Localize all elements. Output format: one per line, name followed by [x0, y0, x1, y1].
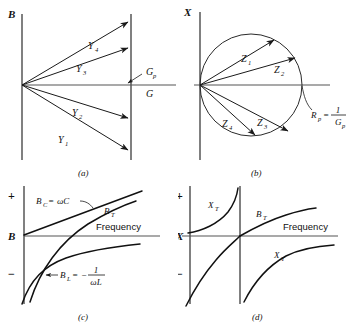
label-bt-sub: T: [263, 214, 267, 221]
label-z4: Z 4: [222, 118, 233, 131]
label-bl-sub: L: [66, 275, 71, 282]
label-z3-sub: 3: [263, 123, 268, 130]
label-z2-sub: 2: [281, 70, 285, 77]
label-y2: Y 2: [72, 107, 83, 120]
label-y2-sub: 2: [79, 113, 83, 120]
label-z4-base: Z: [222, 118, 228, 129]
caption-a: (a): [78, 168, 89, 178]
panel-a: B Y 4 Y 3 Y 2 Y 1 G p G (a): [0, 0, 178, 178]
label-rp-sub: p: [317, 115, 322, 122]
curve-xt-right: [244, 245, 334, 302]
label-gp: G p: [146, 66, 157, 79]
label-y4-sub: 4: [95, 46, 99, 53]
label-z1-base: Z: [241, 53, 247, 64]
caption-c: (c): [78, 312, 88, 322]
vector-z3: [200, 85, 288, 131]
label-rp-denominator-base: G: [335, 117, 342, 127]
label-xt-left-base: X: [207, 200, 214, 210]
panel-d: + − X X T B T Frequency X T (d): [178, 178, 355, 325]
curve-xt-left-lower: [186, 236, 240, 306]
caption-b: (b): [251, 168, 262, 178]
label-rp-denominator-sub: p: [341, 122, 346, 129]
leader-rp: [302, 86, 312, 110]
figure-root: B Y 4 Y 3 Y 2 Y 1 G p G (a): [0, 0, 355, 325]
label-z2: Z 2: [274, 64, 285, 77]
label-y1: Y 1: [58, 134, 68, 147]
label-bt-base: B: [104, 206, 110, 216]
label-y4-base: Y: [88, 40, 95, 51]
label-y3: Y 3: [76, 63, 87, 76]
label-bc-base: B: [36, 196, 42, 206]
label-bl-equation: B L = − 1 ωL: [60, 265, 105, 287]
label-y2-base: Y: [72, 107, 79, 118]
leader-bc: [80, 201, 93, 208]
label-bc-expression: ωC: [57, 196, 70, 206]
label-y4: Y 4: [88, 40, 99, 53]
label-bl-denominator: ωL: [90, 277, 101, 287]
label-y3-base: Y: [76, 63, 83, 74]
panel-c: + − B B C = ωC B T Frequency B L = − 1 ω…: [0, 178, 178, 325]
curve-xt-left: [188, 188, 238, 233]
label-minus-sign: −: [178, 267, 183, 281]
leader-gp: [128, 74, 142, 83]
label-g: G: [146, 88, 153, 99]
label-bl-base: B: [60, 270, 66, 280]
vector-z1: [200, 40, 274, 85]
label-plus-sign: +: [178, 189, 183, 203]
label-z1-sub: 1: [248, 59, 251, 66]
label-xt-right-sub: T: [281, 255, 285, 262]
label-plus-sign: +: [8, 189, 15, 203]
curve-bt: [30, 201, 136, 302]
panel-b: X Z 1 Z 2 Z 3 Z 4 R p = 1 G p (b): [178, 0, 355, 178]
label-bt: B T: [256, 209, 267, 221]
label-y3-sub: 3: [82, 69, 87, 76]
label-bc-equals: =: [48, 196, 54, 206]
label-frequency: Frequency: [96, 221, 141, 232]
label-z3: Z 3: [257, 117, 268, 130]
label-rp-equals: =: [323, 110, 329, 120]
label-y1-sub: 1: [65, 140, 68, 147]
label-bl-numerator: 1: [94, 265, 99, 275]
axis-label-x: X: [183, 6, 192, 18]
label-y1-base: Y: [58, 134, 65, 145]
label-bt-base: B: [256, 209, 262, 219]
label-bl-sign: −: [81, 270, 87, 280]
label-z3-base: Z: [257, 117, 263, 128]
label-minus-sign: −: [8, 267, 15, 281]
label-xt-left-sub: T: [215, 205, 219, 212]
label-bt-sub: T: [111, 211, 115, 218]
axis-label-b: B: [7, 8, 15, 20]
label-z4-sub: 4: [229, 124, 233, 131]
label-gp-sub: p: [152, 72, 157, 79]
label-rp-numerator: 1: [336, 105, 341, 115]
label-bl-equals: =: [72, 270, 78, 280]
label-bc-equation: B C = ωC: [36, 196, 70, 208]
label-xt-left: X T: [207, 200, 219, 212]
axis-label-x: X: [178, 230, 184, 242]
label-xt-right-base: X: [273, 250, 280, 260]
label-frequency: Frequency: [283, 221, 328, 232]
caption-d: (d): [252, 312, 263, 322]
label-z2-base: Z: [274, 64, 280, 75]
label-rp-base: R: [310, 110, 317, 120]
label-rp-equation: R p = 1 G p: [310, 105, 346, 129]
axis-label-b: B: [7, 230, 15, 242]
